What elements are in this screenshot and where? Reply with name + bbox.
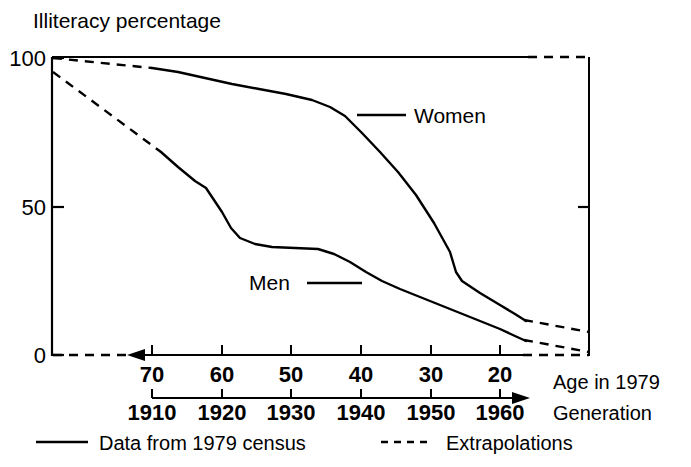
gen-label-1930: 1930 [267,400,316,425]
men-extrapolation-young [524,340,589,352]
gen-label-1910: 1910 [128,400,177,425]
chart-figure: 100 50 0 Illiteracy percentage 70 60 50 … [0,0,691,467]
y-tick-label-100: 100 [9,46,46,71]
illiteracy-chart: 100 50 0 Illiteracy percentage 70 60 50 … [0,0,691,467]
age-label-40: 40 [349,362,373,387]
men-label: Men [249,271,290,294]
gen-label-1940: 1940 [337,400,386,425]
series-women [53,58,589,332]
men-extrapolation-old [53,72,161,152]
age-tick-labels: 70 60 50 40 30 20 [140,362,512,387]
age-label-70: 70 [140,362,164,387]
age-axis-arrowhead [127,349,145,361]
y-tick-label-50: 50 [22,195,46,220]
y-tick-label-0: 0 [34,343,46,368]
age-label-50: 50 [279,362,303,387]
gen-label-1920: 1920 [198,400,247,425]
age-label-60: 60 [210,362,234,387]
chart-title: Illiteracy percentage [33,9,221,32]
age-axis [127,345,525,361]
gen-label-1960: 1960 [476,400,525,425]
women-label: Women [414,104,486,127]
legend-solid-label: Data from 1979 census [99,432,306,454]
generation-tick-labels: 1910 1920 1930 1940 1950 1960 [128,400,525,425]
men-callout: Men [249,271,362,294]
legend-dashed-label: Extrapolations [446,432,573,454]
women-extrapolation-young [524,320,589,332]
gen-label-1950: 1950 [407,400,456,425]
age-label-20: 20 [488,362,512,387]
generation-axis-title: Generation [553,402,652,424]
age-label-30: 30 [419,362,443,387]
women-extrapolation-old [53,58,152,68]
men-data-line [161,152,526,341]
chart-legend: Data from 1979 census Extrapolations [36,432,573,454]
age-axis-title: Age in 1979 [553,371,660,393]
women-callout: Women [357,104,486,127]
